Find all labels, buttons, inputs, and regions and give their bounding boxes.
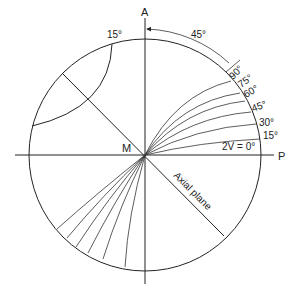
stereonet-diagram: A P M 45° 15° Axial plane 2V = 0° 15° 30… [0,0,297,295]
label-15-upper-left: 15° [107,29,122,40]
label-a: A [141,6,149,18]
angle-arc-45 [147,29,229,63]
label-p: P [278,150,285,162]
label-axial-plane: Axial plane [172,170,215,213]
label-2v-zero: 2V = 0° [222,141,255,152]
label-curve-30: 30° [259,117,274,128]
label-angle-45: 45° [191,29,206,40]
twoV-curves-lower [57,155,145,267]
label-curve-45: 45° [250,98,268,114]
label-m: M [122,142,131,154]
small-circle-15 [32,44,112,126]
label-curve-15: 15° [263,130,278,141]
